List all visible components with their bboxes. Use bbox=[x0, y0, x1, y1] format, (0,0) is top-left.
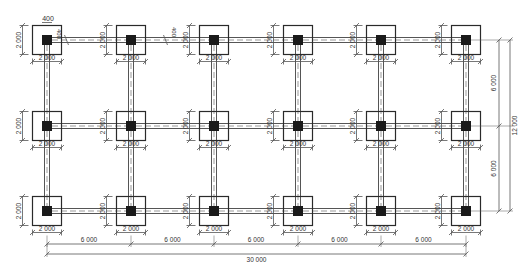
footing-width-label: 2 000 bbox=[373, 140, 390, 147]
column bbox=[376, 121, 386, 131]
footing-width-label: 2 000 bbox=[290, 54, 307, 61]
footing-height-label: 2 000 bbox=[349, 202, 356, 219]
span-label: 6 000 bbox=[164, 236, 181, 243]
column bbox=[126, 35, 136, 45]
total-width-label: 12 000 bbox=[511, 115, 518, 135]
footing-width-label: 2 000 bbox=[123, 225, 140, 232]
footing-height-label: 2 000 bbox=[99, 31, 106, 48]
footing-height-label: 2 000 bbox=[434, 117, 441, 134]
footing-width-label: 2 000 bbox=[206, 140, 223, 147]
column bbox=[42, 121, 52, 131]
total-length-label: 30 000 bbox=[247, 256, 267, 263]
beam-width-label: 400 bbox=[171, 27, 177, 38]
footing-height-label: 2 000 bbox=[182, 117, 189, 134]
footing-width-label: 2 000 bbox=[373, 54, 390, 61]
footing-width-label: 2 000 bbox=[39, 140, 56, 147]
column bbox=[461, 121, 471, 131]
footing-width-label: 2 000 bbox=[373, 225, 390, 232]
footing-width-label: 2 000 bbox=[39, 225, 56, 232]
column-width-label: 400 bbox=[42, 15, 54, 22]
span-label: 6 000 bbox=[490, 160, 497, 177]
footing-height-label: 2 000 bbox=[349, 31, 356, 48]
column bbox=[461, 35, 471, 45]
tie-beams bbox=[45, 38, 469, 214]
footing-height-label: 2 000 bbox=[266, 117, 273, 134]
footing-height-label: 2 000 bbox=[182, 31, 189, 48]
footing-height-label: 2 000 bbox=[99, 202, 106, 219]
drawing-canvas: 2 0002 0002 0002 0002 0002 0002 0002 000… bbox=[0, 0, 522, 265]
footing-width-label: 2 000 bbox=[458, 225, 475, 232]
footing-height-label: 2 000 bbox=[266, 202, 273, 219]
span-label: 6 000 bbox=[248, 236, 265, 243]
column bbox=[126, 121, 136, 131]
footing-width-label: 2 000 bbox=[206, 225, 223, 232]
column bbox=[42, 206, 52, 216]
footing-width-label: 2 000 bbox=[290, 140, 307, 147]
span-label: 6 000 bbox=[81, 236, 98, 243]
column bbox=[461, 206, 471, 216]
beam-width-label: 400 bbox=[56, 29, 62, 40]
footing-width-label: 2 000 bbox=[123, 54, 140, 61]
column bbox=[293, 121, 303, 131]
footing-width-label: 2 000 bbox=[39, 54, 56, 61]
footing-height-label: 2 000 bbox=[349, 117, 356, 134]
column bbox=[42, 35, 52, 45]
footing-width-label: 2 000 bbox=[458, 54, 475, 61]
column bbox=[126, 206, 136, 216]
footing-width-label: 2 000 bbox=[290, 225, 307, 232]
footing-height-label: 2 000 bbox=[266, 31, 273, 48]
span-label: 6 000 bbox=[415, 236, 432, 243]
footing-height-label: 2 000 bbox=[434, 31, 441, 48]
column bbox=[376, 206, 386, 216]
column bbox=[293, 35, 303, 45]
column bbox=[209, 121, 219, 131]
footing-height-label: 2 000 bbox=[182, 202, 189, 219]
footing-width-label: 2 000 bbox=[123, 140, 140, 147]
column bbox=[209, 35, 219, 45]
footing-width-label: 2 000 bbox=[458, 140, 475, 147]
span-label: 6 000 bbox=[331, 236, 348, 243]
span-label: 6 000 bbox=[490, 74, 497, 91]
footing-height-label: 2 000 bbox=[434, 202, 441, 219]
column bbox=[293, 206, 303, 216]
dimension-lines bbox=[20, 23, 514, 258]
footing-width-label: 2 000 bbox=[206, 54, 223, 61]
footing-height-label: 2 000 bbox=[99, 117, 106, 134]
footing-height-label: 2 000 bbox=[15, 31, 22, 48]
footing-height-label: 2 000 bbox=[15, 117, 22, 134]
column bbox=[209, 206, 219, 216]
footing-height-label: 2 000 bbox=[15, 202, 22, 219]
column bbox=[376, 35, 386, 45]
